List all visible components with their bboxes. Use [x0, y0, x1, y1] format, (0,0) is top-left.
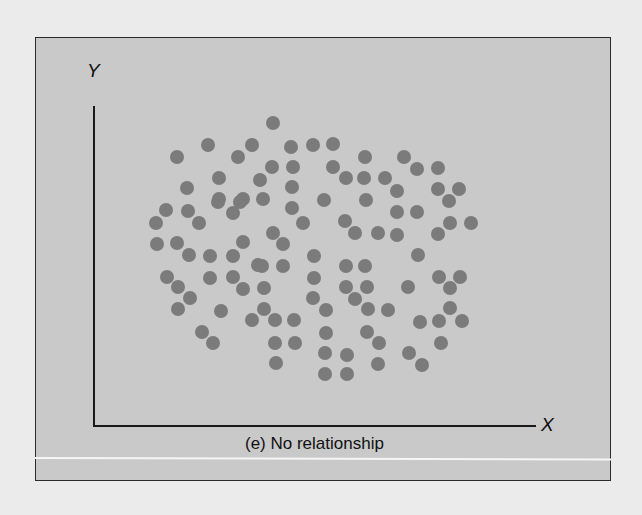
data-point: [287, 313, 301, 327]
data-point: [160, 270, 174, 284]
data-point: [318, 346, 332, 360]
data-point: [340, 367, 354, 381]
data-point: [348, 292, 362, 306]
data-point: [265, 160, 279, 174]
data-point: [288, 336, 302, 350]
data-point: [285, 201, 299, 215]
data-point: [276, 237, 290, 251]
data-point: [266, 226, 280, 240]
data-point: [284, 140, 298, 154]
data-point: [307, 271, 321, 285]
data-point: [326, 137, 340, 151]
data-point: [268, 336, 282, 350]
data-point: [296, 216, 310, 230]
data-point: [338, 214, 352, 228]
data-point: [361, 302, 375, 316]
data-point: [358, 259, 372, 273]
data-point: [285, 180, 299, 194]
data-point: [410, 205, 424, 219]
data-point: [226, 270, 240, 284]
data-point: [443, 301, 457, 315]
data-point: [181, 204, 195, 218]
data-point: [431, 182, 445, 196]
data-point: [195, 325, 209, 339]
data-point: [149, 216, 163, 230]
data-point: [256, 192, 270, 206]
data-point: [211, 195, 225, 209]
data-point: [443, 216, 457, 230]
data-point: [411, 248, 425, 262]
data-point: [348, 226, 362, 240]
data-point: [226, 206, 240, 220]
data-point: [307, 249, 321, 263]
data-point: [257, 281, 271, 295]
data-point: [390, 184, 404, 198]
data-point: [306, 138, 320, 152]
data-point: [180, 181, 194, 195]
data-point: [212, 171, 226, 185]
data-point: [390, 228, 404, 242]
data-point: [339, 259, 353, 273]
data-point: [150, 237, 164, 251]
data-point: [236, 235, 250, 249]
data-point: [360, 280, 374, 294]
data-point: [390, 205, 404, 219]
data-point: [306, 291, 320, 305]
data-point: [231, 150, 245, 164]
data-point: [203, 271, 217, 285]
data-point: [255, 259, 269, 273]
data-point: [226, 249, 240, 263]
data-point: [413, 315, 427, 329]
data-point: [431, 227, 445, 241]
data-point: [269, 356, 283, 370]
data-point: [286, 160, 300, 174]
data-point: [340, 348, 354, 362]
data-point: [359, 193, 373, 207]
data-point: [326, 160, 340, 174]
data-point: [192, 216, 206, 230]
data-point: [214, 304, 228, 318]
data-point: [245, 138, 259, 152]
data-point: [159, 203, 173, 217]
data-point: [431, 161, 445, 175]
data-point: [253, 173, 267, 187]
data-point: [402, 346, 416, 360]
data-point: [206, 336, 220, 350]
data-point: [257, 302, 271, 316]
data-point: [319, 303, 333, 317]
data-point: [381, 303, 395, 317]
data-point: [434, 336, 448, 350]
data-point: [410, 162, 424, 176]
data-point: [170, 236, 184, 250]
data-point: [276, 259, 290, 273]
data-point: [378, 171, 392, 185]
data-point: [443, 281, 457, 295]
data-point: [360, 325, 374, 339]
data-point: [245, 313, 259, 327]
data-point: [170, 150, 184, 164]
data-point: [201, 138, 215, 152]
data-point: [452, 182, 466, 196]
data-point: [268, 313, 282, 327]
data-point: [371, 357, 385, 371]
data-point: [358, 150, 372, 164]
data-point: [339, 280, 353, 294]
data-point: [266, 116, 280, 130]
data-point: [236, 282, 250, 296]
data-point: [415, 358, 429, 372]
data-point: [432, 270, 446, 284]
data-point: [182, 248, 196, 262]
data-point: [432, 314, 446, 328]
data-point: [455, 314, 469, 328]
data-point: [203, 249, 217, 263]
data-point: [317, 193, 331, 207]
data-point: [183, 291, 197, 305]
data-point: [453, 270, 467, 284]
data-point: [401, 280, 415, 294]
data-point: [397, 150, 411, 164]
data-point: [464, 216, 478, 230]
figure-caption: (e) No relationship: [245, 434, 384, 454]
data-point: [319, 326, 333, 340]
data-point: [371, 226, 385, 240]
data-point: [339, 171, 353, 185]
